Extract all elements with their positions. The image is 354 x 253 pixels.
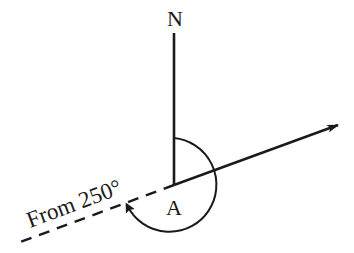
point-a-label: A: [166, 195, 182, 220]
heading-arrow: [174, 125, 338, 185]
north-label: N: [167, 6, 183, 31]
bearing-diagram: N A From 250°: [0, 0, 354, 253]
bearing-label: From 250°: [23, 175, 125, 233]
diagram-svg: N A From 250°: [0, 0, 354, 253]
